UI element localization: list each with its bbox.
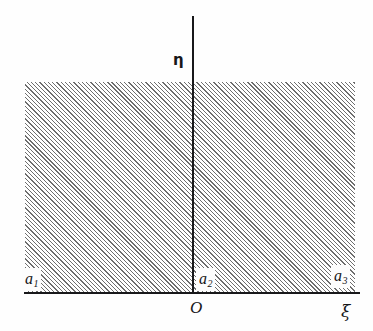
origin-label: O <box>190 299 202 316</box>
region-label-a1: a1 <box>22 268 41 291</box>
region-label-a3-subscript: 3 <box>343 275 348 286</box>
eta-axis-line <box>192 16 194 294</box>
region-label-a3-base: a <box>334 267 342 284</box>
region-label-a1-subscript: 1 <box>34 278 39 289</box>
hatched-upper-half-plane <box>25 82 355 293</box>
xi-axis-label: ξ <box>341 303 350 320</box>
region-label-a1-base: a <box>25 270 33 287</box>
coordinate-plane-figure: η ξ O a1 a2 a3 <box>0 0 373 331</box>
region-label-a2-base: a <box>199 270 207 287</box>
region-label-a2-subscript: 2 <box>208 278 213 289</box>
eta-axis-label: η <box>173 53 184 68</box>
region-label-a3: a3 <box>331 265 350 288</box>
region-label-a2: a2 <box>196 268 215 291</box>
